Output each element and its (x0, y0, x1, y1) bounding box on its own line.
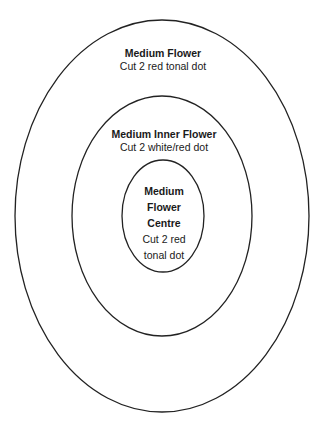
outer-ring-label: Medium Flower Cut 2 red tonal dot (120, 47, 206, 73)
inner-ring-description: Cut 2 red tonal dot (142, 231, 185, 263)
outer-ring-title: Medium Flower (120, 47, 206, 60)
outer-ring-description: Cut 2 red tonal dot (120, 60, 206, 73)
middle-ring-title: Medium Inner Flower (111, 128, 216, 141)
inner-ring-label: Medium Flower Centre Cut 2 red tonal dot (142, 183, 185, 263)
middle-ring-label: Medium Inner Flower Cut 2 white/red dot (111, 128, 216, 154)
middle-ring-description: Cut 2 white/red dot (111, 141, 216, 154)
inner-ring-title: Medium Flower Centre (142, 183, 185, 231)
